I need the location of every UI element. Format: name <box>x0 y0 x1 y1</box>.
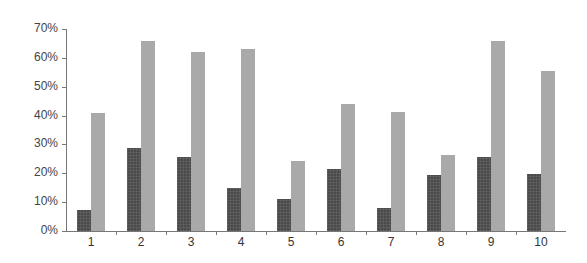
y-tick <box>62 144 66 145</box>
y-tick <box>62 116 66 117</box>
y-tick-label: 60% <box>8 50 58 64</box>
x-tick <box>416 231 417 235</box>
bar-series2-cat1 <box>91 113 105 231</box>
y-tick <box>62 202 66 203</box>
bar-series1-cat2 <box>127 148 141 231</box>
bar-series1-cat7 <box>377 208 391 231</box>
x-tick-label: 8 <box>426 235 456 249</box>
x-tick <box>516 231 517 235</box>
bar-series2-cat8 <box>441 155 455 231</box>
bar-series1-cat4 <box>227 188 241 231</box>
bar-series2-cat6 <box>341 104 355 231</box>
y-tick-label: 0% <box>8 223 58 237</box>
x-tick-label: 6 <box>326 235 356 249</box>
bar-series1-cat9 <box>477 157 491 231</box>
x-tick-label: 4 <box>226 235 256 249</box>
x-tick-label: 10 <box>526 235 556 249</box>
y-tick <box>62 87 66 88</box>
bar-series1-cat8 <box>427 175 441 231</box>
y-tick-label: 10% <box>8 194 58 208</box>
bar-series2-cat5 <box>291 161 305 231</box>
bar-series2-cat10 <box>541 71 555 231</box>
bar-chart: 0%10%20%30%40%50%60%70%12345678910 <box>0 0 587 263</box>
bar-series1-cat1 <box>77 210 91 231</box>
x-tick-label: 9 <box>476 235 506 249</box>
x-tick <box>116 231 117 235</box>
y-tick-label: 50% <box>8 79 58 93</box>
x-tick-label: 2 <box>126 235 156 249</box>
bar-series2-cat3 <box>191 52 205 231</box>
bar-series1-cat3 <box>177 157 191 231</box>
y-axis <box>66 29 67 232</box>
x-tick-label: 5 <box>276 235 306 249</box>
x-tick <box>466 231 467 235</box>
bar-series2-cat4 <box>241 49 255 231</box>
x-tick-label: 7 <box>376 235 406 249</box>
y-tick <box>62 173 66 174</box>
x-tick <box>266 231 267 235</box>
bar-series1-cat10 <box>527 174 541 231</box>
bar-series2-cat2 <box>141 41 155 231</box>
bar-series2-cat9 <box>491 41 505 231</box>
y-tick <box>62 231 66 232</box>
bar-series1-cat6 <box>327 169 341 231</box>
bar-series2-cat7 <box>391 112 405 231</box>
x-tick-label: 1 <box>76 235 106 249</box>
y-tick-label: 20% <box>8 165 58 179</box>
x-tick-label: 3 <box>176 235 206 249</box>
y-tick-label: 70% <box>8 21 58 35</box>
y-tick-label: 40% <box>8 108 58 122</box>
x-tick <box>166 231 167 235</box>
x-tick <box>216 231 217 235</box>
x-tick <box>316 231 317 235</box>
x-tick <box>366 231 367 235</box>
y-tick <box>62 58 66 59</box>
bar-series1-cat5 <box>277 199 291 231</box>
y-tick <box>62 29 66 30</box>
y-tick-label: 30% <box>8 136 58 150</box>
